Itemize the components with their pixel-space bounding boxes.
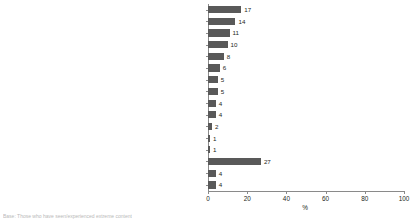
x-axis-tick-label: 60 xyxy=(322,195,329,203)
x-axis-line xyxy=(208,191,404,192)
bar xyxy=(208,100,216,107)
bar-value-label: 6 xyxy=(223,62,226,74)
bar xyxy=(208,111,216,118)
bar xyxy=(208,181,216,188)
bar-row: Politics/Left or right wing extremism10 xyxy=(208,39,404,51)
bar-row: None/prefer not to say4 xyxy=(208,168,404,180)
bar xyxy=(208,158,261,165)
bar xyxy=(208,170,216,177)
bar xyxy=(208,53,224,60)
bar xyxy=(208,18,235,25)
bar-value-label: 11 xyxy=(233,27,239,39)
bar-row: Extreme hate11 xyxy=(208,27,404,39)
bar-row: Don't know4 xyxy=(208,179,404,191)
bar-value-label: 17 xyxy=(244,4,251,16)
x-axis-tick-label: 100 xyxy=(399,195,410,203)
x-axis-tick xyxy=(326,191,327,194)
x-axis-tick xyxy=(365,191,366,194)
bar-value-label: 14 xyxy=(238,16,245,28)
x-axis-tick xyxy=(208,191,209,194)
bar-row: Death threats5 xyxy=(208,86,404,98)
x-axis-tick-label: 80 xyxy=(361,195,368,203)
bar-chart: Religious extremism/ ISIS/Jihad/Terroris… xyxy=(0,0,413,222)
bar-value-label: 1 xyxy=(213,133,216,145)
x-axis-tick xyxy=(404,191,405,194)
x-axis-tick-label: 40 xyxy=(283,195,290,203)
bar xyxy=(208,29,230,36)
bar-value-label: 8 xyxy=(227,51,230,63)
x-axis-tick-label: 0 xyxy=(206,195,210,203)
bar-row: Racism14 xyxy=(208,16,404,28)
bar xyxy=(208,146,210,153)
x-axis-tick xyxy=(247,191,248,194)
bar-value-label: 10 xyxy=(231,39,238,51)
bar xyxy=(208,88,218,95)
bar xyxy=(208,6,241,13)
x-axis-tick-label: 20 xyxy=(244,195,251,203)
plot-area: Religious extremism/ ISIS/Jihad/Terroris… xyxy=(208,4,404,191)
bar-row: Violence6 xyxy=(208,62,404,74)
bar-value-label: 4 xyxy=(219,179,222,191)
bar-row: Homophobia8 xyxy=(208,51,404,63)
bar xyxy=(208,41,228,48)
bar-value-label: 1 xyxy=(213,144,216,156)
bar-value-label: 4 xyxy=(219,109,222,121)
bar-row: Bullying1 xyxy=(208,144,404,156)
bar-value-label: 27 xyxy=(264,156,271,168)
bar-value-label: 4 xyxy=(219,168,222,180)
bar-value-label: 5 xyxy=(221,74,224,86)
bar-row: Sexism/Anti-feminists5 xyxy=(208,74,404,86)
bar xyxy=(208,135,210,142)
bar xyxy=(208,76,218,83)
bar-row: Social media/Facebook4 xyxy=(208,109,404,121)
bar xyxy=(208,123,212,130)
bar xyxy=(208,64,220,71)
bar-row: Nazis1 xyxy=(208,133,404,145)
bar-value-label: 2 xyxy=(215,121,218,133)
bar-row: Erotic/Explicit material4 xyxy=(208,98,404,110)
bar-value-label: 5 xyxy=(221,86,224,98)
bar-row: Religious extremism/ ISIS/Jihad/Terroris… xyxy=(208,4,404,16)
x-axis-tick xyxy=(286,191,287,194)
bar-row: Other27 xyxy=(208,156,404,168)
bar-value-label: 4 xyxy=(219,98,222,110)
bar-row: News media2 xyxy=(208,121,404,133)
x-axis-title: % xyxy=(302,204,308,212)
chart-footnote: Base: Those who have seen/experienced ex… xyxy=(3,213,132,220)
